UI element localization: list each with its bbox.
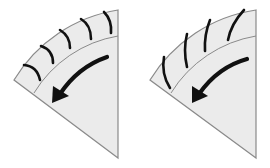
sector-slanted-tread-diagram bbox=[135, 0, 270, 168]
sector-curved-tread-diagram bbox=[0, 0, 135, 168]
sector-shape bbox=[150, 10, 256, 158]
tread-sector-left: Curved tread grooves sector bbox=[0, 0, 135, 168]
tread-sector-right: Slanted tread grooves sector bbox=[135, 0, 270, 168]
